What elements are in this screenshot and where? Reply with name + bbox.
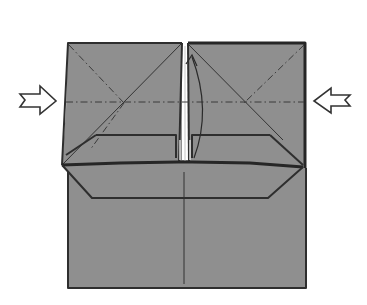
origami-diagram (0, 0, 367, 305)
push-arrow-right-icon (314, 88, 350, 113)
push-arrow-left-icon (20, 86, 56, 114)
right-flap (188, 43, 305, 168)
